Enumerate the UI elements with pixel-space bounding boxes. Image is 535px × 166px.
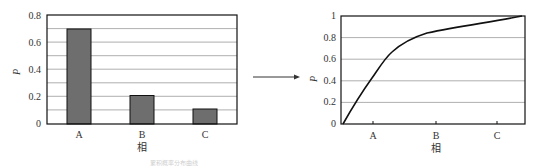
- svg-text:0: 0: [36, 118, 41, 129]
- bar-chart-ylabel: P: [11, 69, 22, 76]
- svg-text:0.6: 0.6: [324, 53, 337, 64]
- line-chart-ylabel: P: [308, 76, 319, 83]
- line-chart-gridlines: [341, 38, 525, 103]
- svg-text:A: A: [75, 129, 83, 140]
- figure: 0 0.2 0.4 0.6 0.8 P A B C 相: [0, 0, 535, 166]
- svg-text:A: A: [369, 130, 377, 141]
- svg-text:0.2: 0.2: [29, 91, 42, 102]
- svg-text:0.8: 0.8: [324, 32, 337, 43]
- line-chart: 0 0.2 0.4 0.6 0.8 1 P A B C 相: [308, 10, 525, 154]
- figure-caption: 累积概率分布曲线: [150, 158, 400, 166]
- svg-text:1: 1: [331, 10, 336, 21]
- svg-text:B: B: [139, 129, 146, 140]
- svg-text:0: 0: [331, 118, 336, 129]
- svg-text:B: B: [433, 130, 440, 141]
- svg-text:0.6: 0.6: [29, 37, 42, 48]
- svg-text:C: C: [202, 129, 209, 140]
- line-chart-yticks: 0 0.2 0.4 0.6 0.8 1: [324, 10, 337, 129]
- bar-chart-xticks: A B C: [75, 129, 208, 140]
- svg-text:0.8: 0.8: [29, 10, 42, 21]
- svg-text:C: C: [494, 130, 501, 141]
- bar-chart: 0 0.2 0.4 0.6 0.8 P A B C 相: [11, 10, 237, 153]
- bar-chart-yticks: 0 0.2 0.4 0.6 0.8: [29, 10, 42, 129]
- bar-b: [130, 96, 154, 125]
- bar-a: [67, 29, 91, 124]
- line-chart-xticks: A B C: [369, 130, 500, 141]
- bar-chart-bars: [67, 29, 217, 124]
- svg-text:0.4: 0.4: [29, 64, 42, 75]
- svg-text:0.4: 0.4: [324, 75, 337, 86]
- cumulative-curve: [343, 16, 522, 124]
- bar-c: [193, 109, 217, 124]
- arrow-icon: [253, 75, 300, 80]
- svg-text:0.2: 0.2: [324, 96, 337, 107]
- line-chart-xlabel: 相: [431, 142, 441, 154]
- bar-chart-xlabel: 相: [137, 141, 147, 153]
